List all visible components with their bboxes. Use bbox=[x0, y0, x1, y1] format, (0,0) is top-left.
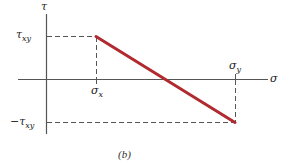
tau-xy-subscript: xy bbox=[22, 34, 31, 43]
neg-tau-xy-symbol: −τ bbox=[10, 115, 25, 128]
neg-tau-xy-label: −τxy bbox=[10, 116, 34, 130]
sigma-x-label: σx bbox=[91, 85, 103, 99]
sigma-x-subscript: x bbox=[99, 90, 104, 99]
sigma-axis-label: σ bbox=[270, 73, 278, 84]
sigma-y-label: σy bbox=[229, 60, 241, 74]
sigma-y-subscript: y bbox=[237, 65, 242, 74]
figure-caption: (b) bbox=[118, 149, 131, 160]
neg-tau-xy-subscript: xy bbox=[25, 121, 34, 130]
sigma-x-symbol: σ bbox=[91, 84, 99, 97]
tau-axis-label: τ bbox=[41, 1, 47, 12]
tau-xy-label: τxy bbox=[16, 29, 31, 43]
stress-diagram bbox=[0, 0, 290, 168]
sigma-y-symbol: σ bbox=[229, 59, 237, 72]
